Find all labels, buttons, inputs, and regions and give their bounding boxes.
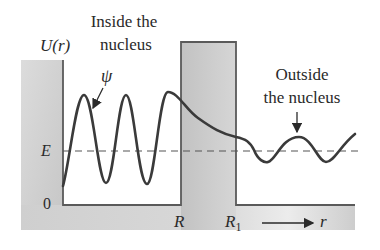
energy-label: E [41,143,51,159]
psi-pointer-arrow [93,88,103,108]
y-axis-label: U(r) [40,37,70,54]
psi-label: ψ [101,67,112,85]
outside-label-line2: the nucleus [244,89,360,106]
R-label: R [174,213,184,230]
outside-label-line1: Outside [252,66,352,83]
r-axis-label: r [320,213,327,230]
R1-main: R [225,212,235,231]
inside-label-line2: nucleus [86,36,166,53]
R1-label: R1 [225,213,241,233]
zero-label: 0 [43,196,51,212]
R1-subscript: 1 [235,220,241,234]
inside-label-line1: Inside the [76,13,172,30]
